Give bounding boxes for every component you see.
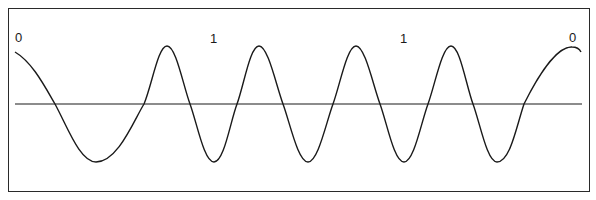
waveform-canvas bbox=[0, 0, 596, 200]
bit-label-1-first: 1 bbox=[210, 32, 217, 45]
bit-label-1-second: 1 bbox=[400, 32, 407, 45]
bit-label-0-left: 0 bbox=[15, 31, 22, 44]
bit-label-0-right: 0 bbox=[569, 31, 576, 44]
